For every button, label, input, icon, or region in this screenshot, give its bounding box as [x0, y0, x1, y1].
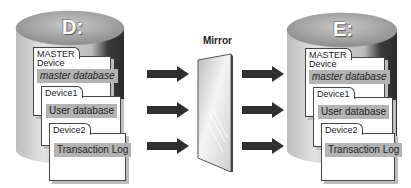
transaction-log-label: Transaction Log [54, 143, 131, 157]
master-database-label: master database [309, 70, 390, 84]
target-disk: E: MASTER Device master database Device1… [283, 0, 411, 188]
drive-label-d: D: [62, 16, 83, 39]
user-database-label: User database [46, 104, 117, 118]
arrow-right-icon [242, 102, 286, 118]
device2-tab: Device2 [49, 123, 91, 135]
transaction-log-label: Transaction Log [325, 143, 402, 157]
mirror-label: Mirror [203, 35, 232, 46]
drive-label-e: E: [333, 18, 353, 41]
device2-tab: Device2 [321, 123, 363, 135]
arrow-right-icon [147, 102, 191, 118]
master-device-subtitle: Device [309, 59, 337, 69]
arrow-right-icon [147, 66, 191, 82]
arrow-right-icon [242, 138, 286, 154]
arrow-right-icon [242, 66, 286, 82]
device2-folder [49, 133, 126, 181]
master-database-text: master database [40, 70, 115, 81]
master-database-text: master database [312, 71, 387, 82]
master-database-label: master database [37, 69, 118, 83]
master-device-subtitle: Device [37, 58, 65, 68]
user-database-label: User database [318, 105, 389, 119]
device2-folder [321, 133, 395, 181]
mirror-panel-icon [195, 52, 237, 174]
device1-tab: Device1 [41, 86, 83, 98]
source-disk: D: MASTER Device master database Device1… [0, 0, 140, 188]
arrow-right-icon [147, 138, 191, 154]
device1-tab: Device1 [313, 87, 355, 99]
